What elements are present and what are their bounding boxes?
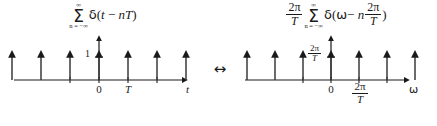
spacing-tick-denominator: T <box>352 94 367 106</box>
time-variable: t <box>101 7 105 22</box>
equivalence-arrow-icon: ↔ <box>205 62 235 77</box>
horizontal-axis-label: t <box>186 84 189 95</box>
amplitude-denominator: T <box>308 54 321 63</box>
spacing-fraction: 2π T <box>365 1 381 27</box>
index-variable: n <box>358 7 365 22</box>
fourier-pair-figure: ∞ Σ n = −∞ δ(t − nT) <box>0 0 437 126</box>
minus-sign: − <box>347 7 354 22</box>
spacing-numerator: 2π <box>365 1 381 15</box>
sum-lower-limit: n = −∞ <box>69 23 87 30</box>
minus-sign: − <box>108 7 115 22</box>
impulse-train <box>247 56 415 80</box>
summation-symbol: ∞ Σ n = −∞ <box>69 2 87 29</box>
spacing-denominator: T <box>365 15 381 28</box>
amplitude-label: 1 <box>85 49 90 59</box>
frequency-domain-panel: 2π T ∞ Σ n = −∞ δ(ω− n 2π T ) <box>235 0 437 126</box>
delta-symbol: δ <box>324 7 332 22</box>
tick-label-zero: 0 <box>91 84 107 95</box>
delta-symbol: δ <box>89 7 97 22</box>
spacing-tick-fraction: 2π T <box>352 81 367 105</box>
time-domain-plot: 1 0 T t <box>0 34 205 94</box>
sum-lower-limit: n = −∞ <box>304 23 322 30</box>
time-domain-equation: ∞ Σ n = −∞ δ(t − nT) <box>0 2 205 29</box>
time-domain-panel: ∞ Σ n = −∞ δ(t − nT) <box>0 0 205 126</box>
close-paren: ) <box>382 7 386 22</box>
omega-variable: ω <box>336 7 347 22</box>
frequency-domain-equation: 2π T ∞ Σ n = −∞ δ(ω− n 2π T ) <box>235 2 437 29</box>
prefactor-denominator: T <box>286 15 302 28</box>
horizontal-axis-label: ω <box>409 84 418 95</box>
prefactor-numerator: 2π <box>286 1 302 15</box>
summation-symbol: ∞ Σ n = −∞ <box>304 2 322 29</box>
impulse-train <box>12 56 186 80</box>
spacing-tick-numerator: 2π <box>352 81 367 94</box>
frequency-domain-plot: 2π T 0 2π T ω <box>235 34 437 94</box>
prefactor-fraction: 2π T <box>286 1 302 27</box>
amplitude-fraction: 2π T <box>308 44 321 64</box>
tick-label-spacing: 2π T <box>347 82 373 106</box>
tick-label-period: T <box>120 84 136 95</box>
amplitude-label: 2π T <box>307 45 322 65</box>
tick-label-zero: 0 <box>323 84 339 95</box>
close-paren: ) <box>132 7 136 22</box>
